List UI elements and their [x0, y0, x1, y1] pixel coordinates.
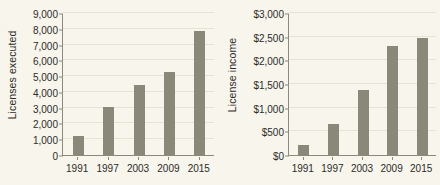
y-tick-label: $1,500: [253, 80, 284, 91]
x-tick-label: 1997: [96, 163, 118, 174]
y-tick-label: 3,000: [33, 103, 58, 114]
bar: [298, 145, 309, 155]
x-tick-mark: [108, 157, 109, 160]
x-tick-mark: [303, 157, 304, 160]
y-tick-label: 4,000: [33, 87, 58, 98]
y-tick-label: $2,000: [253, 56, 284, 67]
x-tick-mark: [168, 157, 169, 160]
bar: [134, 85, 145, 155]
x-tick-label: 2009: [157, 163, 179, 174]
bar-chart-figure: Licenses executed 01,0002,0003,0004,0005…: [0, 0, 440, 185]
y-tick-label: $0: [273, 151, 284, 162]
y-tick-label: 8,000: [33, 24, 58, 35]
x-tick-mark: [332, 157, 333, 160]
y-tick-label: 0: [52, 151, 58, 162]
bar: [103, 107, 114, 155]
x-tick-label: 1991: [292, 163, 314, 174]
x-tick-label: 2003: [351, 163, 373, 174]
plot-frame-right: [288, 14, 436, 156]
y-tick-label: 5,000: [33, 72, 58, 83]
gridline: [63, 12, 214, 13]
x-tick-label: 2009: [380, 163, 402, 174]
x-tick-label: 2015: [188, 163, 210, 174]
y-tick-label: $3,000: [253, 9, 284, 20]
y-tick-labels-left: 01,0002,0003,0004,0005,0006,0007,0008,00…: [14, 14, 62, 156]
bar: [387, 46, 398, 155]
gridline: [63, 28, 214, 29]
bar: [417, 38, 428, 155]
y-tick-labels-right: $0$500$1,000$1,500$2,000$2,500$3,000: [236, 14, 288, 156]
plot-frame-left: [62, 14, 214, 156]
y-tick-label: 1,000: [33, 135, 58, 146]
plot-area-right: $0$500$1,000$1,500$2,000$2,500$3,000 199…: [220, 0, 440, 185]
y-tick-label: 6,000: [33, 56, 58, 67]
x-tick-mark: [199, 157, 200, 160]
x-tick-mark: [392, 157, 393, 160]
bar: [73, 136, 84, 155]
gridline: [63, 44, 214, 45]
bar: [358, 90, 369, 155]
bar: [164, 72, 175, 155]
y-tick-label: $500: [262, 127, 284, 138]
gridline: [63, 59, 214, 60]
x-tick-mark: [421, 157, 422, 160]
bar: [194, 31, 205, 155]
x-tick-label: 1997: [321, 163, 343, 174]
y-tick-label: 7,000: [33, 40, 58, 51]
x-tick-mark: [77, 157, 78, 160]
x-tick-label: 2003: [127, 163, 149, 174]
x-tick-mark: [362, 157, 363, 160]
y-tick-label: 9,000: [33, 9, 58, 20]
gridline: [63, 75, 214, 76]
gridline: [289, 12, 436, 13]
bar: [328, 124, 339, 155]
gridline: [289, 59, 436, 60]
gridline: [289, 36, 436, 37]
gridline: [289, 83, 436, 84]
x-tick-label: 1991: [66, 163, 88, 174]
plot-area-left: 01,0002,0003,0004,0005,0006,0007,0008,00…: [0, 0, 220, 185]
y-tick-label: 2,000: [33, 119, 58, 130]
x-tick-mark: [138, 157, 139, 160]
x-tick-label: 2015: [410, 163, 432, 174]
y-tick-label: $1,000: [253, 103, 284, 114]
chart-panel-licenses-executed: Licenses executed 01,0002,0003,0004,0005…: [0, 0, 220, 185]
y-tick-label: $2,500: [253, 32, 284, 43]
chart-panel-license-income: License income $0$500$1,000$1,500$2,000$…: [220, 0, 440, 185]
